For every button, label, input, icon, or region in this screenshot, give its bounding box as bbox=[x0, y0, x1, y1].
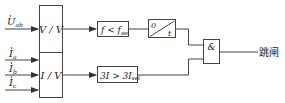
svg-text:&: & bbox=[207, 42, 215, 52]
connector-current-to-and bbox=[138, 59, 204, 75]
output-trip-label: 跳闸 bbox=[259, 46, 279, 58]
time-delay-block: 0 t bbox=[149, 20, 176, 38]
logic-diagram: Uab Ia Ib Ic V / V I / V bbox=[0, 0, 285, 103]
input-ia: Ia bbox=[5, 47, 38, 60]
svg-text:Uab: Uab bbox=[7, 16, 23, 28]
current-comparator-block: 3I > 3Iset bbox=[98, 67, 141, 83]
and-gate-block: & bbox=[204, 40, 220, 64]
svg-text:0: 0 bbox=[151, 21, 156, 30]
input-ib: Ib bbox=[5, 62, 38, 75]
svg-text:I / V: I / V bbox=[40, 70, 64, 81]
input-uab: Uab bbox=[5, 15, 38, 29]
svg-text:Ia: Ia bbox=[8, 48, 17, 60]
voltage-converter-block: V / V bbox=[39, 6, 65, 53]
current-converter-block: I / V bbox=[40, 53, 64, 98]
svg-text:Ib: Ib bbox=[8, 63, 17, 75]
frequency-comparator-block: f < fset bbox=[98, 22, 131, 37]
input-ic: Ic bbox=[5, 76, 38, 90]
connector-timer-to-and bbox=[176, 29, 204, 45]
svg-text:V / V: V / V bbox=[39, 24, 65, 35]
svg-text:Ic: Ic bbox=[8, 77, 17, 89]
